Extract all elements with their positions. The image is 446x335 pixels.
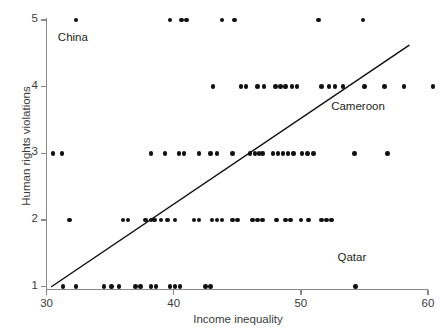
data-point bbox=[74, 284, 79, 289]
data-point bbox=[271, 151, 276, 156]
y-tick-1 bbox=[41, 286, 46, 287]
data-point bbox=[67, 218, 72, 223]
data-point bbox=[352, 151, 357, 156]
data-point bbox=[121, 218, 126, 223]
trend-line bbox=[0, 0, 446, 335]
data-point bbox=[283, 218, 288, 223]
data-point bbox=[327, 84, 332, 89]
data-point bbox=[117, 284, 122, 289]
data-point bbox=[311, 151, 316, 156]
data-point bbox=[230, 151, 235, 156]
x-tick-30 bbox=[46, 290, 47, 295]
data-point bbox=[244, 84, 249, 89]
x-tick-label-50: 50 bbox=[286, 297, 316, 309]
data-point bbox=[262, 84, 267, 89]
x-axis-line bbox=[46, 289, 428, 290]
data-point bbox=[319, 218, 324, 223]
data-point bbox=[197, 218, 202, 223]
data-point bbox=[230, 218, 235, 223]
data-point bbox=[182, 151, 187, 156]
data-point bbox=[178, 284, 183, 289]
data-point bbox=[159, 218, 164, 223]
data-point bbox=[316, 18, 321, 23]
data-point bbox=[319, 84, 324, 89]
data-point bbox=[51, 151, 56, 156]
data-point bbox=[154, 284, 159, 289]
data-point bbox=[291, 151, 296, 156]
data-point bbox=[165, 218, 170, 223]
x-tick-label-40: 40 bbox=[159, 297, 189, 309]
y-axis-line bbox=[46, 18, 47, 290]
y-tick-5 bbox=[41, 19, 46, 20]
data-point bbox=[305, 151, 310, 156]
data-point bbox=[324, 218, 329, 223]
data-point bbox=[197, 151, 202, 156]
x-tick-label-30: 30 bbox=[32, 297, 62, 309]
data-point bbox=[126, 218, 131, 223]
data-point bbox=[353, 284, 358, 289]
y-tick-4 bbox=[41, 86, 46, 87]
x-tick-label-60: 60 bbox=[413, 297, 443, 309]
data-point bbox=[239, 84, 244, 89]
x-axis-title: Income inequality bbox=[148, 313, 328, 325]
data-point bbox=[168, 18, 173, 23]
data-point bbox=[255, 84, 260, 89]
data-point bbox=[250, 218, 255, 223]
data-point bbox=[184, 18, 189, 23]
data-point bbox=[211, 84, 216, 89]
data-point bbox=[260, 218, 265, 223]
x-tick-60 bbox=[427, 290, 428, 295]
data-point bbox=[143, 218, 148, 223]
plot-area: 12345 30405060 ChinaCameroonQatar Human … bbox=[0, 0, 446, 335]
data-point bbox=[220, 18, 225, 23]
data-point bbox=[177, 151, 182, 156]
data-point bbox=[203, 284, 208, 289]
data-point bbox=[283, 84, 288, 89]
data-point bbox=[152, 218, 157, 223]
data-point bbox=[102, 284, 107, 289]
data-point bbox=[215, 218, 220, 223]
x-tick-50 bbox=[300, 290, 301, 295]
data-point bbox=[382, 84, 387, 89]
data-point bbox=[173, 218, 178, 223]
data-point bbox=[248, 151, 253, 156]
data-point bbox=[333, 84, 338, 89]
data-point bbox=[362, 84, 367, 89]
y-tick-2 bbox=[41, 219, 46, 220]
data-point bbox=[208, 284, 213, 289]
data-point bbox=[220, 218, 225, 223]
data-point bbox=[109, 284, 114, 289]
data-point bbox=[215, 151, 220, 156]
data-point bbox=[133, 284, 138, 289]
data-point bbox=[300, 151, 305, 156]
data-point bbox=[149, 151, 154, 156]
y-tick-label-5: 5 bbox=[18, 12, 38, 24]
data-point bbox=[192, 218, 197, 223]
data-point bbox=[60, 151, 65, 156]
data-point bbox=[149, 284, 154, 289]
data-point bbox=[290, 84, 295, 89]
data-point bbox=[431, 84, 436, 89]
data-point bbox=[299, 218, 304, 223]
data-point bbox=[273, 84, 278, 89]
data-point bbox=[286, 151, 291, 156]
y-tick-3 bbox=[41, 153, 46, 154]
data-point bbox=[163, 151, 168, 156]
scatter-chart: 12345 30405060 ChinaCameroonQatar Human … bbox=[0, 0, 446, 335]
data-point bbox=[288, 218, 293, 223]
data-point bbox=[260, 151, 265, 156]
data-point bbox=[341, 84, 346, 89]
data-point bbox=[329, 218, 334, 223]
data-point bbox=[385, 151, 390, 156]
y-axis-title: Human rights violations bbox=[20, 76, 32, 216]
data-point bbox=[235, 218, 240, 223]
data-point bbox=[402, 84, 407, 89]
data-point bbox=[208, 151, 213, 156]
data-point bbox=[295, 84, 300, 89]
data-point bbox=[232, 18, 237, 23]
annotation-china: China bbox=[58, 31, 88, 43]
data-point bbox=[281, 151, 286, 156]
data-point bbox=[74, 18, 79, 23]
data-point bbox=[173, 284, 178, 289]
annotation-qatar: Qatar bbox=[338, 251, 367, 263]
